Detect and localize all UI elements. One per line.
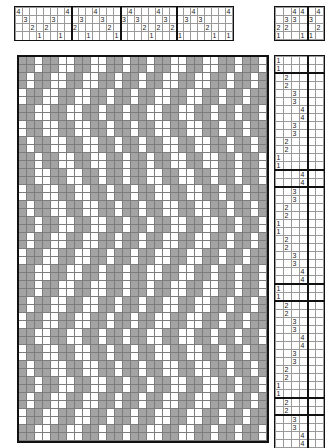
tieup-cell-filled[interactable]: 3	[292, 16, 300, 24]
drawdown-cell-weft[interactable]	[123, 433, 131, 441]
treadling-cell-filled[interactable]: 4	[300, 179, 308, 188]
drawdown-cell-warp[interactable]	[19, 169, 27, 177]
drawdown-cell-warp[interactable]	[163, 57, 171, 65]
treadling-cell-empty[interactable]	[300, 146, 308, 154]
drawdown-cell-weft[interactable]	[91, 305, 99, 313]
drawdown-cell-warp[interactable]	[123, 185, 131, 193]
drawdown-cell-warp[interactable]	[179, 417, 187, 425]
threading-cell-empty[interactable]	[198, 32, 205, 40]
drawdown-cell-warp[interactable]	[75, 209, 83, 217]
drawdown-cell-warp[interactable]	[67, 249, 75, 257]
drawdown-cell-weft[interactable]	[43, 105, 51, 113]
treadling-cell-empty[interactable]	[284, 162, 292, 171]
drawdown-cell-warp[interactable]	[219, 217, 227, 225]
drawdown-cell-warp[interactable]	[227, 417, 235, 425]
drawdown-cell-weft[interactable]	[171, 153, 179, 161]
drawdown-cell-warp[interactable]	[203, 353, 211, 361]
drawdown-cell-warp[interactable]	[155, 65, 163, 73]
drawdown-cell-warp[interactable]	[259, 185, 267, 193]
threading-cell-empty[interactable]	[86, 8, 93, 16]
drawdown-cell-weft[interactable]	[35, 105, 43, 113]
drawdown-cell-warp[interactable]	[123, 321, 131, 329]
drawdown-cell-weft[interactable]	[27, 361, 35, 369]
drawdown-cell-weft[interactable]	[171, 305, 179, 313]
treadling-cell-empty[interactable]	[284, 98, 292, 106]
threading-cell-empty[interactable]	[142, 16, 149, 24]
drawdown-cell-warp[interactable]	[139, 161, 147, 169]
treadling-cell-empty[interactable]	[308, 268, 316, 276]
drawdown-cell-warp[interactable]	[59, 129, 67, 137]
drawdown-cell-weft[interactable]	[51, 409, 59, 417]
drawdown-cell-warp[interactable]	[155, 209, 163, 217]
drawdown-cell-warp[interactable]	[227, 161, 235, 169]
treadling-cell-empty[interactable]	[308, 374, 316, 382]
drawdown-cell-weft[interactable]	[203, 377, 211, 385]
drawdown-cell-warp[interactable]	[99, 305, 107, 313]
drawdown-cell-weft[interactable]	[187, 337, 195, 345]
drawdown-cell-warp[interactable]	[203, 321, 211, 329]
drawdown-cell-weft[interactable]	[251, 145, 259, 153]
drawdown-cell-warp[interactable]	[211, 209, 219, 217]
drawdown-cell-weft[interactable]	[147, 433, 155, 441]
drawdown-cell-warp[interactable]	[59, 433, 67, 441]
drawdown-cell-warp[interactable]	[187, 201, 195, 209]
threading-cell-filled[interactable]: 4	[226, 8, 233, 16]
drawdown-cell-warp[interactable]	[179, 129, 187, 137]
tieup-cell-empty[interactable]	[276, 16, 284, 24]
drawdown-cell-weft[interactable]	[99, 377, 107, 385]
drawdown-cell-weft[interactable]	[43, 129, 51, 137]
drawdown-cell-weft[interactable]	[75, 337, 83, 345]
drawdown-cell-weft[interactable]	[99, 57, 107, 65]
drawdown-cell-warp[interactable]	[35, 417, 43, 425]
drawdown-cell-weft[interactable]	[219, 89, 227, 97]
drawdown-cell-warp[interactable]	[131, 225, 139, 233]
drawdown-cell-weft[interactable]	[171, 289, 179, 297]
drawdown-cell-warp[interactable]	[211, 249, 219, 257]
treadling-cell-empty[interactable]	[300, 358, 308, 366]
drawdown-cell-weft[interactable]	[171, 65, 179, 73]
drawdown-cell-weft[interactable]	[195, 185, 203, 193]
drawdown-cell-weft[interactable]	[195, 201, 203, 209]
drawdown-cell-weft[interactable]	[155, 169, 163, 177]
drawdown-cell-warp[interactable]	[203, 337, 211, 345]
drawdown-cell-weft[interactable]	[59, 201, 67, 209]
drawdown-cell-warp[interactable]	[243, 337, 251, 345]
drawdown-cell-weft[interactable]	[203, 73, 211, 81]
drawdown-cell-weft[interactable]	[35, 385, 43, 393]
drawdown-cell-warp[interactable]	[163, 217, 171, 225]
drawdown-cell-warp[interactable]	[251, 57, 259, 65]
drawdown-cell-warp[interactable]	[203, 177, 211, 185]
drawdown-cell-weft[interactable]	[259, 161, 267, 169]
treadling-cell-empty[interactable]	[300, 212, 308, 220]
drawdown-cell-weft[interactable]	[211, 225, 219, 233]
drawdown-cell-warp[interactable]	[219, 369, 227, 377]
threading-cell-filled[interactable]: 1	[37, 32, 44, 40]
drawdown-cell-weft[interactable]	[187, 417, 195, 425]
drawdown-cell-warp[interactable]	[171, 265, 179, 273]
drawdown-cell-warp[interactable]	[67, 313, 75, 321]
drawdown-cell-warp[interactable]	[219, 401, 227, 409]
drawdown-cell-warp[interactable]	[243, 65, 251, 73]
drawdown-cell-warp[interactable]	[75, 65, 83, 73]
drawdown-cell-weft[interactable]	[211, 329, 219, 337]
drawdown-cell-weft[interactable]	[83, 193, 91, 201]
drawdown-cell-warp[interactable]	[227, 249, 235, 257]
drawdown-cell-weft[interactable]	[75, 193, 83, 201]
drawdown-cell-warp[interactable]	[235, 297, 243, 305]
treadling-cell-empty[interactable]	[308, 293, 316, 302]
treadling-cell-empty[interactable]	[284, 260, 292, 268]
drawdown-cell-warp[interactable]	[155, 233, 163, 241]
treadling-cell-filled[interactable]: 2	[284, 244, 292, 252]
drawdown-cell-warp[interactable]	[251, 329, 259, 337]
tieup-cell-empty[interactable]	[316, 32, 324, 40]
drawdown-cell-weft[interactable]	[235, 377, 243, 385]
drawdown-cell-warp[interactable]	[163, 281, 171, 289]
treadling-cell-empty[interactable]	[308, 326, 316, 334]
treadling-cell-empty[interactable]	[300, 154, 308, 162]
drawdown-cell-warp[interactable]	[35, 393, 43, 401]
treadling-cell-empty[interactable]	[308, 57, 316, 65]
drawdown-cell-weft[interactable]	[51, 97, 59, 105]
drawdown-cell-weft[interactable]	[107, 409, 115, 417]
treadling-cell-empty[interactable]	[284, 350, 292, 358]
threading-cell-empty[interactable]	[177, 24, 184, 32]
